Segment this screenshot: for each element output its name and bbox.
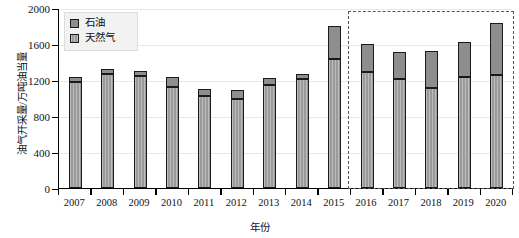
legend-swatch-oil-icon	[70, 19, 79, 28]
bar-segment-gas	[361, 72, 374, 188]
x-axis-tick	[253, 189, 254, 195]
legend-item-gas[interactable]: 天然气	[70, 31, 132, 46]
bar-2016[interactable]	[361, 44, 374, 188]
bar-2012[interactable]	[231, 90, 244, 188]
bar-segment-gas	[101, 74, 114, 188]
bar-segment-oil	[198, 89, 211, 96]
bar-segment-oil	[361, 44, 374, 72]
bar-segment-gas	[198, 96, 211, 188]
legend-swatch-gas-icon	[70, 34, 79, 43]
x-axis-tick	[447, 189, 448, 195]
x-axis-tick	[220, 189, 221, 195]
x-axis-tick	[350, 189, 351, 195]
bar-2011[interactable]	[198, 89, 211, 188]
x-axis-tick	[480, 189, 481, 195]
bar-segment-oil	[328, 26, 341, 59]
bar-2019[interactable]	[458, 42, 471, 188]
x-axis-tick	[317, 189, 318, 195]
bar-segment-gas	[69, 82, 82, 188]
x-axis-title: 年份	[0, 219, 519, 234]
bar-segment-gas	[490, 75, 503, 188]
bar-segment-gas	[458, 77, 471, 188]
bar-2009[interactable]	[134, 71, 147, 188]
bar-2014[interactable]	[296, 74, 309, 188]
bar-segment-oil	[490, 23, 503, 75]
chart-container: 2000 1600 1200 800 400 0 油气开采量/万吨油当量 200…	[0, 0, 519, 238]
bar-2020[interactable]	[490, 23, 503, 188]
x-axis-tick	[285, 189, 286, 195]
y-axis-title: 油气开采量/万吨油当量	[14, 34, 29, 174]
bar-2007[interactable]	[69, 77, 82, 188]
bar-2018[interactable]	[425, 51, 438, 188]
bar-segment-oil	[231, 90, 244, 99]
bar-segment-gas	[425, 88, 438, 188]
bar-2013[interactable]	[263, 78, 276, 188]
bar-2010[interactable]	[166, 77, 179, 188]
bar-segment-oil	[263, 78, 276, 85]
x-axis-tick	[90, 189, 91, 195]
legend: 石油 天然气	[64, 12, 138, 51]
x-axis-tick	[155, 189, 156, 195]
bar-segment-gas	[328, 59, 341, 188]
bar-segment-oil	[296, 74, 309, 79]
bar-2008[interactable]	[101, 69, 114, 188]
bar-segment-gas	[296, 79, 309, 188]
x-axis-tick	[512, 189, 513, 195]
bar-segment-oil	[166, 77, 179, 87]
x-tick-label-2020: 2020	[473, 198, 519, 209]
bar-segment-oil	[393, 52, 406, 79]
y-tick-label: 2000	[6, 4, 50, 15]
x-axis-tick	[382, 189, 383, 195]
x-axis-tick	[58, 189, 59, 195]
bar-2015[interactable]	[328, 26, 341, 188]
x-axis-tick	[415, 189, 416, 195]
legend-label-gas: 天然气	[85, 33, 115, 44]
legend-label-oil: 石油	[85, 18, 105, 29]
bar-segment-gas	[166, 87, 179, 188]
bar-segment-gas	[263, 85, 276, 188]
bar-2017[interactable]	[393, 52, 406, 188]
bar-segment-oil	[458, 42, 471, 77]
bar-segment-oil	[101, 69, 114, 74]
x-axis-tick	[123, 189, 124, 195]
legend-item-oil[interactable]: 石油	[70, 16, 132, 31]
bar-segment-oil	[425, 51, 438, 88]
bar-segment-gas	[393, 79, 406, 188]
bar-segment-gas	[134, 76, 147, 188]
y-tick-label: 0	[6, 184, 50, 195]
bar-segment-oil	[69, 77, 82, 82]
bar-segment-gas	[231, 99, 244, 188]
bar-segment-oil	[134, 71, 147, 76]
x-axis-tick	[188, 189, 189, 195]
